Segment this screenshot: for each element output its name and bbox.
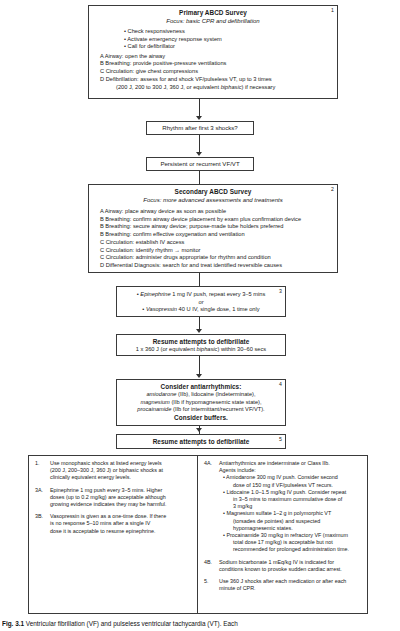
- epinephrine-vasopressin-box: 3 • Epinephrine 1 mg IV push, repeat eve…: [116, 286, 286, 317]
- consider-antiarrhythmics-box: 4 Consider antiarrhythmics: amiodarone (…: [116, 379, 286, 426]
- note-line: hypomagnesemic states.: [228, 525, 362, 532]
- box-number-2: 2: [331, 186, 334, 192]
- consider-buffers-label: Consider buffers.: [122, 414, 280, 422]
- note-line: conditions known to provoke sudden cardi…: [219, 566, 362, 573]
- rhythm-after-shocks-node: Rhythm after first 3 shocks?: [146, 121, 254, 135]
- list-item: • Call for defibrillator: [94, 43, 332, 51]
- figure-page: 1 Primary ABCD Survey Focus: basic CPR a…: [0, 0, 400, 631]
- vasopressin-line: • Vasopressin 40 U IV, single dose, 1 ti…: [122, 306, 280, 314]
- note-bullet: • Amiodarone 300 mg IV push. Consider se…: [223, 474, 362, 488]
- note-line: dose of 150 mg if VF/pulseless VT recurs…: [228, 482, 362, 489]
- list-item: B Breathing: provide positive-pressure v…: [94, 60, 332, 68]
- antiarrhythmic-line: amiodarone (IIb), lidocaine (Indetermina…: [122, 391, 280, 399]
- list-item: B Breathing: confirm airway device place…: [94, 216, 332, 224]
- note-line: Sodium bicarbonate 1 mEq/kg IV is indica…: [219, 559, 362, 566]
- note-text: Antiarrhythmics are indeterminate or Cla…: [219, 460, 362, 554]
- note-item: 3B. Vasopressin is given as a one-time d…: [35, 513, 192, 535]
- connector-line: [199, 171, 200, 184]
- connector-line: [199, 273, 200, 286]
- note-bullet: • Lidocaine 1.0–1.5 mg/kg IV push. Consi…: [223, 489, 362, 511]
- note-line: dose it is acceptable to resume epinephr…: [50, 528, 192, 535]
- resume-defibrillate-detail: 1 x 360 J (or equivalent biphasic) withi…: [122, 346, 280, 354]
- note-line: in 3–5 mins to maximum cummulative dose …: [228, 496, 362, 503]
- note-line: growing evidence indicates they may be h…: [50, 501, 192, 508]
- list-item: C Circulation: establish IV access: [94, 239, 332, 247]
- list-item: C Circulation: administer drugs appropri…: [94, 254, 332, 262]
- note-text: Sodium bicarbonate 1 mEq/kg IV is indica…: [219, 559, 362, 573]
- connector-arrow: [196, 428, 202, 432]
- note-item: 1. Use monophasic shocks at listed energ…: [35, 460, 192, 482]
- list-item-continuation: (200 J, 200 to 300 J, 360 J, or equivale…: [94, 84, 332, 92]
- note-line: (torsades de pointes) and suspected: [228, 518, 362, 525]
- note-text: Vasopressin is given as a one-time dose.…: [50, 513, 192, 535]
- note-number: 5.: [204, 578, 219, 592]
- note-line: Antiarrhythmics are indeterminate or Cla…: [219, 460, 362, 467]
- list-item: C Circulation: identify rhythm → monitor: [94, 247, 332, 255]
- list-item: • Activate emergency response system: [94, 36, 332, 44]
- antiarrhythmic-line: procainamide (IIb for intermittant/recur…: [122, 406, 280, 414]
- connector-arrow: [196, 374, 202, 378]
- footnotes-column-right: 4A. Antiarrhythmics are indeterminate or…: [198, 456, 367, 613]
- list-item: D Differential Diagnosis: search for and…: [94, 262, 332, 270]
- note-item: 4B. Sodium bicarbonate 1 mEq/kg IV is in…: [204, 559, 362, 573]
- list-item: D Defibrillation: assess for and shock V…: [94, 76, 332, 84]
- note-text: Epinephrine 1 mg push every 3–5 mins. Hi…: [50, 487, 192, 509]
- persistent-node-label: Persistent or recurrent VF/VT: [160, 160, 239, 168]
- or-separator: or: [122, 299, 280, 307]
- primary-abcd-bullets: • Check responsiveness • Activate emerge…: [94, 28, 332, 51]
- note-text: Use monophasic shocks at listed energy l…: [50, 460, 192, 482]
- caption-text: Ventricular fibrillation (VF) and pulsel…: [26, 620, 238, 627]
- antiarrhythmics-title: Consider antiarrhythmics:: [122, 383, 280, 391]
- note-line: minute of CPR.: [219, 585, 362, 592]
- note-bullet: • Procainamide 30 mg/kg in refractory VF…: [223, 532, 362, 554]
- note-line: doses (up to 0.2 mg/kg) are acceptable a…: [50, 494, 192, 501]
- note-line: clinically equivalent energy levels.: [50, 474, 192, 481]
- primary-abcd-survey-box: 1 Primary ABCD Survey Focus: basic CPR a…: [88, 5, 338, 99]
- note-line: recommended for prolonged administration…: [228, 546, 362, 553]
- list-item: C Circulation: give chest compressions: [94, 68, 332, 76]
- secondary-abcd-subtitle: Focus: more advanced assessments and tre…: [94, 196, 332, 204]
- resume-defibrillate-title-2: Resume attempts to defibrillate: [122, 438, 280, 446]
- resume-defibrillate-title: Resume attempts to defibrillate: [122, 338, 280, 346]
- connector-arrow: [196, 329, 202, 333]
- persistent-recurrent-node: Persistent or recurrent VF/VT: [146, 157, 254, 171]
- connector-line: [199, 356, 200, 376]
- primary-abcd-subtitle: Focus: basic CPR and defibrillation: [94, 17, 332, 25]
- note-text: Use 360 J shocks after each medication o…: [219, 578, 362, 592]
- list-item: B Breathing: confirm effective oxygenati…: [94, 231, 332, 239]
- primary-abcd-steps: A Airway: open the airway B Breathing: p…: [94, 53, 332, 92]
- note-number: 3B.: [35, 513, 50, 535]
- note-line: Agents include:: [219, 467, 362, 474]
- note-number: 1.: [35, 460, 50, 482]
- epinephrine-line: • Epinephrine 1 mg IV push, repeat every…: [122, 291, 280, 299]
- footnotes-column-left: 1. Use monophasic shocks at listed energ…: [29, 456, 198, 613]
- list-item: B Breathing: secure airway device; purpo…: [94, 223, 332, 231]
- resume-defibrillate-box-2: 5 Resume attempts to defibrillate: [116, 434, 286, 449]
- note-line: Vasopressin is given as a one-time dose.…: [50, 513, 192, 520]
- caption-label: Fig. 3.1: [2, 620, 24, 627]
- note-line: 3 mg/kg: [228, 503, 362, 510]
- list-item: A Airway: open the airway: [94, 53, 332, 61]
- list-item: • Check responsiveness: [94, 28, 332, 36]
- note-item: 4A. Antiarrhythmics are indeterminate or…: [204, 460, 362, 554]
- note-bullet: • Magnesium sulfate 1–2 g in polymorphic…: [223, 510, 362, 532]
- box-number-5: 5: [279, 436, 282, 442]
- note-line: Use monophasic shocks at listed energy l…: [50, 460, 192, 467]
- box-number-3: 3: [279, 288, 282, 294]
- footnotes-panel: 1. Use monophasic shocks at listed energ…: [28, 455, 368, 614]
- figure-caption: Fig. 3.1 Ventricular fibrillation (VF) a…: [2, 620, 398, 631]
- note-item: 5. Use 360 J shocks after each medicatio…: [204, 578, 362, 592]
- note-line: Use 360 J shocks after each medication o…: [219, 578, 362, 585]
- antiarrhythmic-line: magnesium (IIb if hypomagnesemic state s…: [122, 399, 280, 407]
- connector-arrow: [196, 116, 202, 120]
- secondary-abcd-survey-box: 2 Secondary ABCD Survey Focus: more adva…: [88, 184, 338, 273]
- note-line: total dose 17 mg/kg) is acceptable but n…: [228, 539, 362, 546]
- primary-abcd-title: Primary ABCD Survey: [94, 9, 332, 17]
- note-item: 3A. Epinephrine 1 mg push every 3–5 mins…: [35, 487, 192, 509]
- box-number-1: 1: [331, 7, 334, 13]
- secondary-abcd-steps: A Airway: place airway device as soon as…: [94, 208, 332, 270]
- note-line: is no response 5–10 mins after a single …: [50, 520, 192, 527]
- note-number: 4A.: [204, 460, 219, 554]
- list-item: A Airway: place airway device as soon as…: [94, 208, 332, 216]
- resume-defibrillate-box-1: Resume attempts to defibrillate 1 x 360 …: [116, 334, 286, 356]
